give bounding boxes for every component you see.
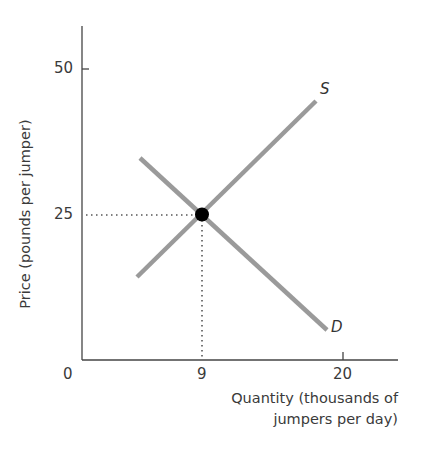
y-axis-title: Price (pounds per jumper)	[17, 119, 33, 308]
y-tick-label-25: 25	[54, 205, 73, 223]
y-tick-label-50: 50	[54, 59, 73, 77]
supply-curve	[137, 101, 316, 277]
supply-label: S	[320, 80, 330, 98]
x-tick-label-20: 20	[333, 365, 352, 383]
x-axis-title-line2: jumpers per day)	[231, 409, 398, 430]
equilibrium-point	[195, 208, 209, 222]
origin-label: 0	[63, 365, 73, 383]
x-tick-label-9: 9	[197, 365, 207, 383]
demand-label: D	[331, 318, 343, 336]
x-axis-title-line1: Quantity (thousands of	[231, 388, 398, 409]
x-axis-title: Quantity (thousands of jumpers per day)	[231, 388, 398, 430]
